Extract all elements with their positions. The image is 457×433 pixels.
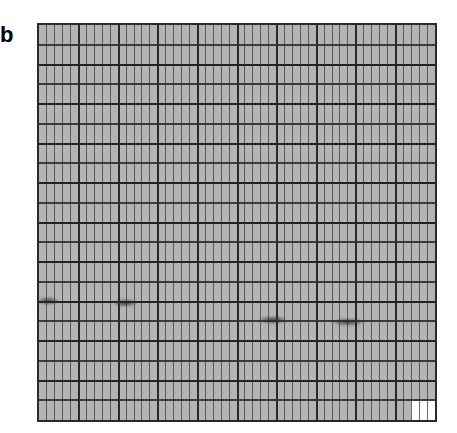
grid-horizontal-line [39,123,435,125]
grid-horizontal-line [39,162,435,164]
gel-band [260,317,286,323]
grid-horizontal-line [39,241,435,243]
grid-horizontal-line [39,360,435,362]
grid-horizontal-line [39,399,435,401]
gel-band [114,300,136,306]
grid-horizontal-line [39,44,435,46]
grid-horizontal-line [39,182,435,184]
grid-horizontal-line [39,64,435,66]
gel-grid [37,23,437,422]
grid-horizontal-line [39,202,435,204]
grid-horizontal-line [39,261,435,263]
grid-horizontal-line [39,83,435,85]
grid-horizontal-line [39,103,435,105]
grid-horizontal-line [39,380,435,382]
grid-horizontal-line [39,340,435,342]
grid-horizontal-line [39,222,435,224]
panel-label: b [0,24,13,46]
gel-band [334,319,362,325]
grid-horizontal-line [39,143,435,145]
grid-horizontal-line [39,320,435,322]
grid-horizontal-line [39,281,435,283]
grid-horizontal-line [39,301,435,303]
white-cell [427,400,435,420]
gel-band [38,298,58,304]
